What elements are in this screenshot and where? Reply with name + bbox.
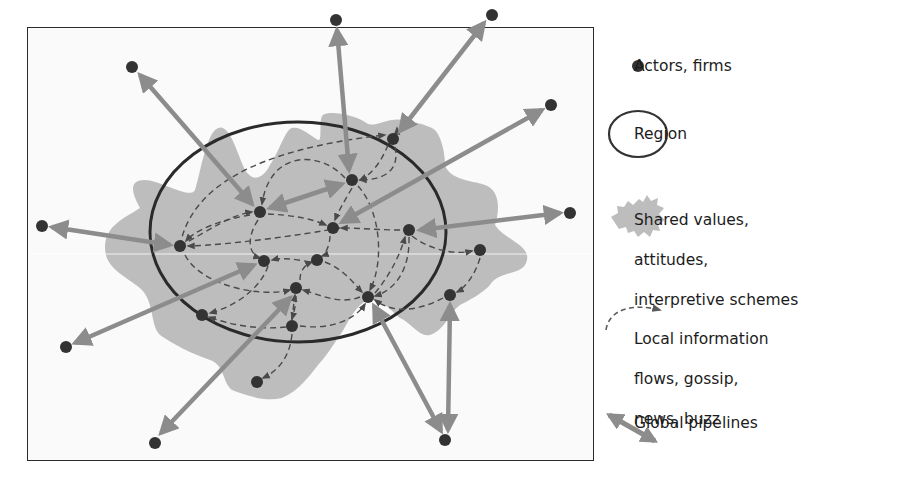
- legend-label-local-line2: flows, gossip,: [634, 369, 769, 389]
- legend-label-actors: Actors, firms: [634, 56, 732, 76]
- legend-label-shared-line3: interpretive schemes: [634, 290, 798, 310]
- legend-label-region: Region: [634, 124, 687, 144]
- legend-label-shared-line1: Shared values,: [634, 210, 798, 230]
- legend-label-local-line1: Local information: [634, 329, 769, 349]
- legend-label-global: Global pipelines: [634, 413, 758, 433]
- legend-label-shared-line2: attitudes,: [634, 250, 798, 270]
